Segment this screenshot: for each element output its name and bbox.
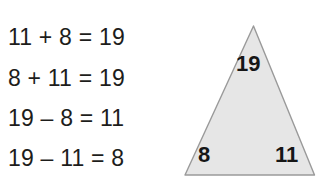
fact-family-figure: 11 + 8 = 19 8 + 11 = 19 19 – 8 = 11 19 –… [0,0,317,185]
equation-subtraction-1: 19 – 8 = 11 [8,107,124,130]
equation-list: 11 + 8 = 19 8 + 11 = 19 19 – 8 = 11 19 –… [0,0,160,185]
number-bond-triangle: 19 8 11 [180,20,317,185]
equation-addition-2: 8 + 11 = 19 [8,67,125,90]
triangle-bottom-left-value: 8 [198,144,210,166]
equation-subtraction-2: 19 – 11 = 8 [8,147,124,170]
triangle-top-value: 19 [236,53,260,75]
equation-addition-1: 11 + 8 = 19 [8,26,125,49]
triangle-bottom-right-value: 11 [275,144,298,166]
